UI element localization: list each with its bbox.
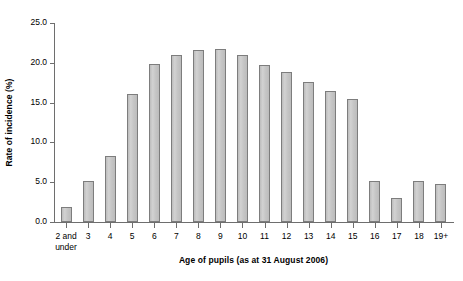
bar (171, 55, 182, 222)
bar (325, 91, 336, 222)
bar (347, 99, 358, 222)
bar (149, 64, 160, 222)
bar (435, 184, 446, 222)
y-axis-tick: 5.0 (50, 182, 55, 183)
y-axis-tick: 0.0 (50, 222, 55, 223)
x-axis-title: Age of pupils (as at 31 August 2006) (55, 255, 452, 265)
x-axis-tick (309, 223, 310, 228)
bar (237, 55, 248, 222)
y-axis-tick: 10.0 (50, 142, 55, 143)
x-axis-tick (331, 223, 332, 228)
bar (369, 181, 380, 222)
x-axis-tick (375, 223, 376, 228)
bar (391, 198, 402, 222)
y-axis-tick-label: 0.0 (13, 216, 47, 226)
x-axis-tick (441, 223, 442, 228)
y-axis-tick: 20.0 (50, 63, 55, 64)
y-axis-tick-label: 25.0 (13, 17, 47, 27)
bar-chart: Rate of incidence (%) 0.05.010.015.020.0… (0, 0, 463, 281)
x-axis-line (54, 222, 454, 223)
x-axis-tick (419, 223, 420, 228)
x-axis-tick (176, 223, 177, 228)
bar (193, 50, 204, 222)
bar (281, 72, 292, 222)
x-axis-tick (220, 223, 221, 228)
x-axis-tick (198, 223, 199, 228)
x-axis-tick-label: 19+ (426, 231, 456, 242)
bar (303, 82, 314, 222)
x-axis-tick (265, 223, 266, 228)
bar (83, 181, 94, 222)
bar (127, 94, 138, 222)
x-axis-tick (397, 223, 398, 228)
y-axis-tick-label: 10.0 (13, 136, 47, 146)
y-axis-title: Rate of incidence (%) (2, 23, 16, 222)
x-axis-tick (66, 223, 67, 228)
bar (105, 156, 116, 222)
x-axis-tick (242, 223, 243, 228)
y-axis-tick-label: 20.0 (13, 57, 47, 67)
x-axis-tick (110, 223, 111, 228)
bar (215, 49, 226, 222)
y-axis-tick-label: 5.0 (13, 176, 47, 186)
y-axis-tick: 25.0 (50, 23, 55, 24)
x-axis-tick (353, 223, 354, 228)
y-axis-tick: 15.0 (50, 103, 55, 104)
bar (61, 207, 72, 222)
x-axis-tick (154, 223, 155, 228)
plot-area: 0.05.010.015.020.025.0 2 and under345678… (55, 23, 452, 222)
x-axis-tick (287, 223, 288, 228)
y-axis-tick-label: 15.0 (13, 97, 47, 107)
y-axis-line (54, 23, 55, 223)
x-axis-tick (88, 223, 89, 228)
x-axis-tick (132, 223, 133, 228)
bar (413, 181, 424, 222)
bar (259, 65, 270, 222)
